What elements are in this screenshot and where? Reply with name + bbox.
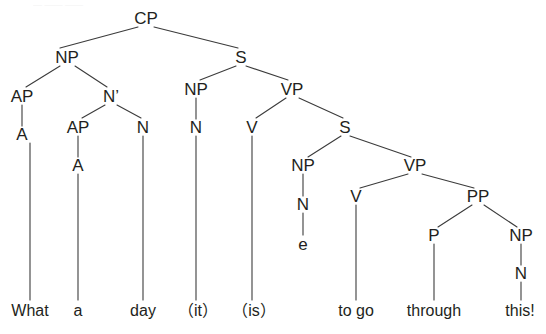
tree-node-a1: A (16, 126, 27, 143)
tree-node-np2: NP (184, 81, 208, 98)
tree-edge-s2-to-vp2 (350, 136, 411, 157)
tree-node-n1: N (137, 119, 149, 136)
tree-node-e: e (298, 236, 307, 253)
tree-node-np4: NP (509, 227, 533, 244)
tree-node-n4: N (515, 265, 527, 282)
tree-node-n3: N (297, 196, 309, 213)
tree-node-nbar: N’ (103, 88, 119, 105)
tree-node-p: P (428, 227, 439, 244)
tree-terminal-w-day: day (130, 303, 156, 319)
tree-node-v1: V (246, 119, 257, 136)
tree-node-np3: NP (291, 157, 315, 174)
tree-edge-cp-to-np1 (60, 27, 138, 48)
tree-terminal-w-is: （is） (232, 303, 276, 319)
tree-node-vp1: VP (281, 81, 304, 98)
tree-node-np1: NP (55, 49, 79, 66)
tree-edge-vp1-to-v1 (256, 98, 286, 118)
tree-edge-np1-to-ap1 (26, 66, 60, 87)
tree-node-vp2: VP (404, 157, 427, 174)
tree-edge-vp2-to-v2 (360, 174, 408, 188)
tree-node-cp: CP (134, 10, 158, 27)
tree-edge-s1-to-vp1 (246, 66, 288, 80)
tree-edge-pp-to-p (438, 205, 472, 227)
tree-terminal-w-what: What (11, 303, 48, 319)
tree-node-pp: PP (467, 188, 490, 205)
syntax-tree-diagram: — —— —— CPNPSAPN’NPVPAAPNNVSANPVPNVPPePN… (0, 0, 546, 334)
tree-edge-nbar-to-ap2 (82, 105, 105, 118)
tree-terminal-w-a: a (74, 303, 83, 319)
tree-edge-np1-to-nbar (75, 66, 107, 87)
tree-node-v2: V (350, 188, 361, 205)
tree-terminal-w-through: through (407, 303, 461, 319)
tree-node-n2: N (190, 119, 202, 136)
tree-node-a2: A (72, 157, 83, 174)
tree-edge-s1-to-np2 (200, 66, 236, 80)
tree-edge-pp-to-np4 (484, 205, 517, 227)
tree-edge-cp-to-s1 (154, 27, 238, 48)
tree-terminal-w-it: （it） (178, 303, 218, 319)
tree-node-ap1: AP (11, 88, 34, 105)
tree-terminal-w-togo: to go (338, 303, 374, 319)
tree-edge-nbar-to-n1 (117, 105, 141, 118)
tree-node-ap2: AP (67, 119, 90, 136)
tree-edge-s2-to-np3 (308, 136, 341, 157)
tree-node-s1: S (235, 49, 246, 66)
tree-node-s2: S (339, 119, 350, 136)
tree-edge-vp1-to-s2 (299, 98, 343, 118)
tree-terminal-w-this: this! (505, 303, 534, 319)
